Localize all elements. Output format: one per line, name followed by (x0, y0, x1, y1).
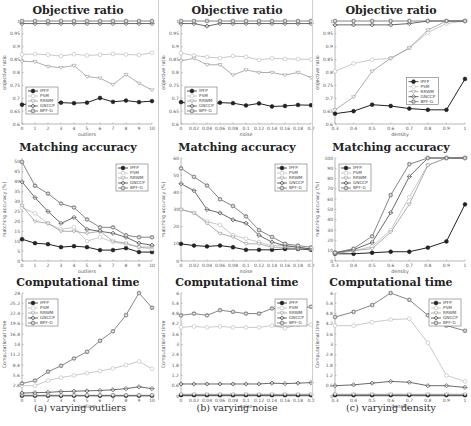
series-bpf-g (20, 19, 154, 23)
series-rrwm (20, 394, 154, 397)
svg-text:2: 2 (47, 263, 50, 268)
svg-text:0: 0 (21, 263, 24, 268)
svg-text:0.8: 0.8 (326, 70, 333, 75)
svg-text:20: 20 (173, 224, 179, 229)
svg-text:0.14: 0.14 (267, 263, 277, 268)
svg-text:objective ratio: objective ratio (161, 55, 166, 90)
svg-text:4.2: 4.2 (326, 321, 333, 326)
svg-text:0.14: 0.14 (267, 126, 277, 131)
svg-text:20: 20 (14, 219, 20, 224)
svg-text:30: 30 (14, 199, 20, 204)
series-gnccp (179, 381, 313, 387)
line-chart: 0.60.650.70.750.80.850.90.9510.30.40.50.… (313, 14, 469, 142)
chart-legend: IPFPPSMRRWMGNCCPBPF-G (26, 87, 58, 114)
series-rrwm (179, 57, 313, 79)
line-chart: 2.85.68.411.21416.819.622.425.2280123456… (0, 286, 156, 414)
svg-text:10: 10 (149, 263, 155, 268)
svg-text:7: 7 (112, 263, 115, 268)
svg-text:6: 6 (176, 291, 179, 296)
svg-text:4: 4 (73, 263, 76, 268)
svg-text:BPF-G: BPF-G (289, 320, 302, 325)
svg-text:8: 8 (125, 263, 128, 268)
svg-text:0.4: 0.4 (350, 263, 357, 268)
svg-text:2.8: 2.8 (13, 383, 20, 388)
svg-text:0.04: 0.04 (202, 263, 212, 268)
svg-text:0.18: 0.18 (293, 263, 303, 268)
svg-text:outliers: outliers (78, 132, 96, 137)
line-chart: 0.60.650.70.750.80.850.90.95100.020.040.… (159, 14, 315, 142)
svg-text:outliers: outliers (78, 269, 96, 274)
series-psm (333, 19, 467, 73)
svg-text:0.7: 0.7 (326, 96, 333, 101)
svg-text:4.8: 4.8 (172, 311, 179, 316)
svg-text:0.9: 0.9 (326, 44, 333, 49)
svg-text:9: 9 (138, 126, 141, 131)
svg-text:40: 40 (327, 217, 333, 222)
svg-text:60: 60 (173, 156, 179, 161)
svg-text:11.2: 11.2 (10, 352, 20, 357)
svg-text:1: 1 (34, 263, 37, 268)
svg-text:0.85: 0.85 (10, 57, 20, 62)
svg-text:6: 6 (99, 263, 102, 268)
svg-text:0.85: 0.85 (169, 57, 179, 62)
svg-text:0.16: 0.16 (280, 126, 290, 131)
svg-text:1.2: 1.2 (172, 373, 179, 378)
svg-text:0.85: 0.85 (323, 57, 333, 62)
svg-text:Computational time: Computational time (315, 321, 320, 369)
svg-text:14: 14 (14, 342, 20, 347)
svg-text:3.6: 3.6 (172, 332, 179, 337)
svg-text:25.2: 25.2 (10, 301, 20, 306)
caption-density: (c) varying density (313, 402, 469, 413)
svg-text:22.4: 22.4 (10, 311, 20, 316)
chart-legend: IPFPPSMRRWMGNCCPBPF-G (275, 299, 307, 326)
svg-text:4: 4 (73, 126, 76, 131)
svg-text:0.12: 0.12 (254, 126, 264, 131)
svg-text:BPF-G: BPF-G (443, 320, 456, 325)
svg-text:20: 20 (327, 238, 333, 243)
svg-text:0.6: 0.6 (172, 122, 179, 127)
line-chart: 00.61.21.82.433.64.24.85.460.30.40.50.60… (313, 286, 469, 414)
svg-text:10: 10 (327, 248, 333, 253)
svg-text:0.4: 0.4 (350, 126, 357, 131)
svg-text:objective ratio: objective ratio (2, 55, 7, 90)
svg-text:0.65: 0.65 (169, 109, 179, 114)
svg-text:2.4: 2.4 (172, 352, 179, 357)
svg-text:5: 5 (86, 263, 89, 268)
svg-text:2: 2 (47, 126, 50, 131)
svg-text:1: 1 (34, 126, 37, 131)
series-bpf-g (179, 19, 313, 23)
chart-legend: IPFPPSMRRWMGNCCPBPF-G (407, 78, 439, 105)
svg-text:0.9: 0.9 (443, 263, 450, 268)
svg-text:0.8: 0.8 (424, 263, 431, 268)
svg-text:30: 30 (173, 207, 179, 212)
caption-outliers: (a) varying outliers (2, 402, 158, 413)
svg-text:28: 28 (14, 291, 20, 296)
svg-text:3: 3 (330, 342, 333, 347)
svg-text:0.8: 0.8 (172, 70, 179, 75)
svg-text:BPF-G: BPF-G (130, 185, 143, 190)
svg-text:0.5: 0.5 (369, 263, 376, 268)
svg-text:0.5: 0.5 (369, 126, 376, 131)
svg-text:BPF-G: BPF-G (421, 99, 434, 104)
svg-text:0.6: 0.6 (387, 126, 394, 131)
svg-text:0.75: 0.75 (323, 83, 333, 88)
svg-text:3: 3 (60, 126, 63, 131)
chart-legend: IPFPPSMRRWMGNCCPBPF-G (339, 164, 371, 191)
svg-text:0.04: 0.04 (202, 126, 212, 131)
svg-text:0.7: 0.7 (13, 96, 20, 101)
chart-legend: IPFPPSMRRWMGNCCPBPF-G (429, 299, 461, 326)
svg-text:noise: noise (240, 132, 253, 137)
svg-text:0.02: 0.02 (189, 263, 199, 268)
svg-text:0.7: 0.7 (406, 263, 413, 268)
svg-text:BPF-G: BPF-G (289, 185, 302, 190)
svg-text:5.6: 5.6 (13, 373, 20, 378)
svg-text:1: 1 (464, 126, 467, 131)
series-psm (179, 51, 313, 61)
svg-text:0.75: 0.75 (169, 83, 179, 88)
svg-text:0.9: 0.9 (443, 126, 450, 131)
svg-text:0.3: 0.3 (331, 126, 338, 131)
line-chart: 01020304050607080901000.30.40.50.60.70.8… (313, 151, 469, 279)
svg-text:0.95: 0.95 (10, 31, 20, 36)
svg-text:8.4: 8.4 (13, 363, 20, 368)
svg-text:0.06: 0.06 (215, 263, 225, 268)
